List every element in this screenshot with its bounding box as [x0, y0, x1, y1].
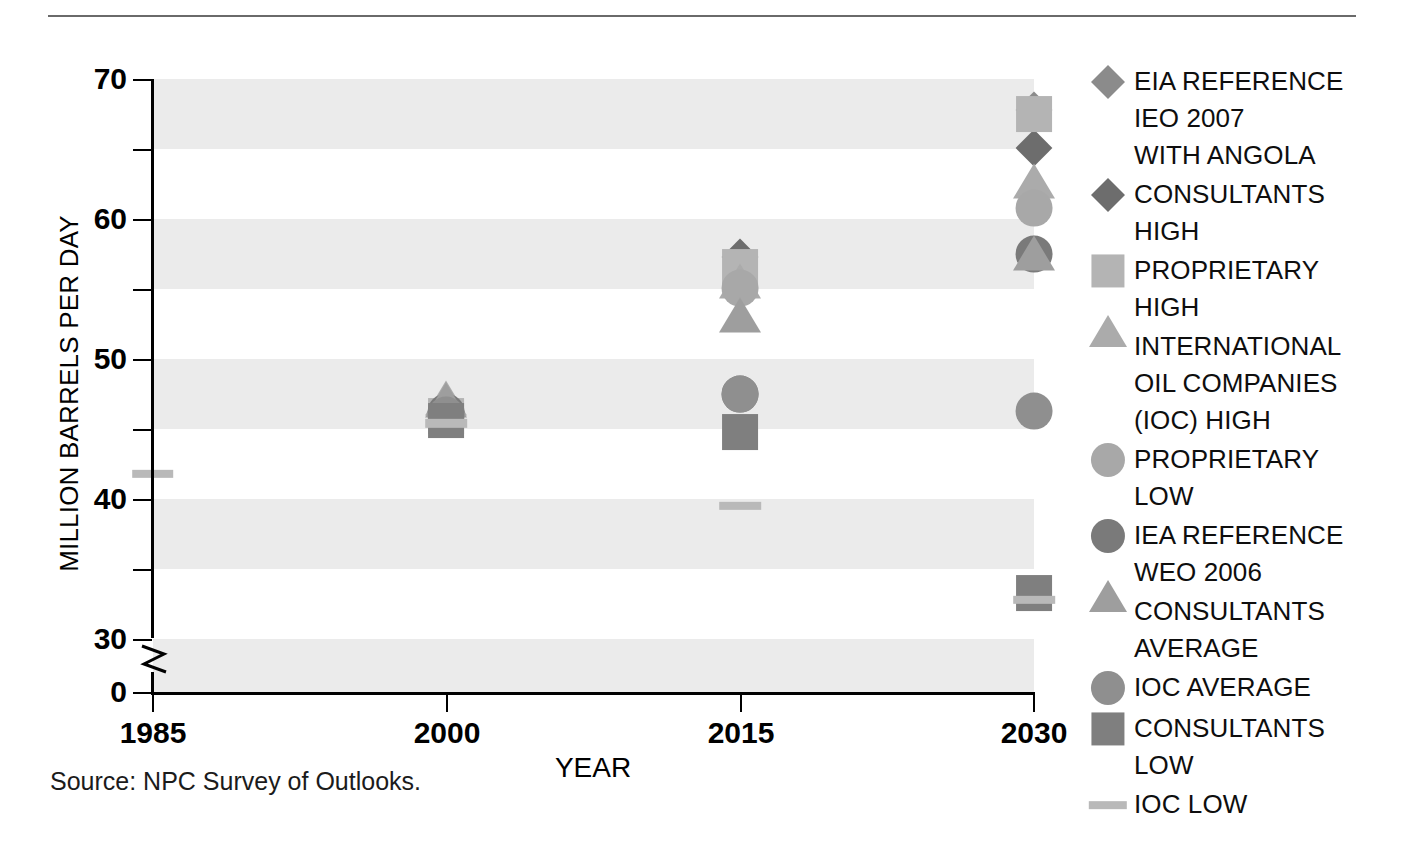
- y-axis-title: MILLION BARRELS PER DAY: [54, 184, 85, 604]
- y-tick-35: [133, 569, 152, 571]
- legend-item-label: CONSULTANTS AVERAGE: [1134, 592, 1325, 667]
- y-tick-40: [133, 499, 152, 501]
- square-marker-icon: [1082, 251, 1134, 291]
- triangle-marker-icon: [1089, 580, 1127, 612]
- x-tick-2015: [740, 694, 742, 712]
- y-tick-65: [133, 149, 152, 151]
- y-tick-50: [133, 359, 152, 361]
- legend-item-2[interactable]: PROPRIETARY HIGH: [1082, 251, 1402, 326]
- data-point: [1016, 392, 1053, 429]
- circle-marker-icon: [1091, 443, 1125, 477]
- x-tick-label-2015: 2015: [671, 716, 811, 750]
- x-axis-line: [151, 692, 1035, 695]
- legend-item-label: EIA REFERENCE IEO 2007 WITH ANGOLA: [1134, 62, 1343, 174]
- circle-marker-icon: [1082, 440, 1134, 480]
- circle-marker-icon: [1082, 668, 1134, 708]
- data-point: [719, 297, 761, 332]
- legend-item-label: PROPRIETARY LOW: [1134, 440, 1319, 515]
- axis-break-icon: [140, 640, 170, 676]
- data-point: [426, 419, 468, 427]
- square-marker-icon: [1091, 712, 1124, 745]
- data-point: [1016, 96, 1052, 132]
- data-point: [722, 376, 759, 413]
- y-tick-label-30: 30: [57, 622, 127, 656]
- y-tick-60: [133, 219, 152, 221]
- data-point: [1016, 129, 1053, 166]
- x-tick-label-2000: 2000: [377, 716, 517, 750]
- legend-item-4[interactable]: PROPRIETARY LOW: [1082, 440, 1402, 515]
- y-tick-label-70: 70: [57, 62, 127, 96]
- y-tick-0: [133, 692, 152, 694]
- circle-marker-icon: [1091, 519, 1125, 553]
- x-tick-1985: [152, 694, 154, 712]
- x-axis-title: YEAR: [453, 752, 733, 784]
- diamond-marker-icon: [1091, 178, 1125, 212]
- data-point: [1013, 236, 1055, 271]
- triangle-marker-icon: [1082, 327, 1134, 367]
- chart-page: 70 60 50 40 30 0 1985 2000 2015 2030 MIL…: [0, 0, 1410, 841]
- data-point: [1013, 596, 1055, 604]
- y-tick-70: [133, 79, 152, 81]
- triangle-marker-icon: [1089, 315, 1127, 347]
- legend-item-5[interactable]: IEA REFERENCE WEO 2006: [1082, 516, 1402, 591]
- legend-item-6[interactable]: CONSULTANTS AVERAGE: [1082, 592, 1402, 667]
- legend-item-9[interactable]: IOC LOW: [1082, 785, 1402, 825]
- y-tick-label-0: 0: [57, 675, 127, 709]
- legend-item-8[interactable]: CONSULTANTS LOW: [1082, 709, 1402, 784]
- square-marker-icon: [1091, 254, 1124, 287]
- circle-marker-icon: [1082, 516, 1134, 556]
- x-tick-2030: [1033, 694, 1035, 712]
- source-note: Source: NPC Survey of Outlooks.: [50, 767, 421, 796]
- legend-item-3[interactable]: INTERNATIONAL OIL COMPANIES (IOC) HIGH: [1082, 327, 1402, 439]
- dash-marker-icon: [1082, 785, 1134, 825]
- data-point: [1016, 575, 1052, 611]
- circle-marker-icon: [1091, 671, 1125, 705]
- legend-item-label: IOC LOW: [1134, 785, 1247, 823]
- chart-legend: EIA REFERENCE IEO 2007 WITH ANGOLACONSUL…: [1082, 62, 1402, 826]
- diamond-marker-icon: [1091, 65, 1125, 99]
- x-tick-label-1985: 1985: [83, 716, 223, 750]
- legend-item-label: CONSULTANTS LOW: [1134, 709, 1325, 784]
- legend-item-0[interactable]: EIA REFERENCE IEO 2007 WITH ANGOLA: [1082, 62, 1402, 174]
- legend-item-label: CONSULTANTS HIGH: [1134, 175, 1325, 250]
- y-tick-45: [133, 429, 152, 431]
- legend-item-1[interactable]: CONSULTANTS HIGH: [1082, 175, 1402, 250]
- y-tick-30: [133, 639, 152, 641]
- legend-item-label: INTERNATIONAL OIL COMPANIES (IOC) HIGH: [1134, 327, 1341, 439]
- diamond-marker-icon: [1082, 175, 1134, 215]
- legend-item-label: IEA REFERENCE WEO 2006: [1134, 516, 1343, 591]
- legend-item-label: IOC AVERAGE: [1134, 668, 1311, 706]
- legend-item-label: PROPRIETARY HIGH: [1134, 251, 1319, 326]
- legend-item-7[interactable]: IOC AVERAGE: [1082, 668, 1402, 708]
- data-point: [1016, 189, 1053, 226]
- data-point: [722, 414, 758, 450]
- y-tick-55: [133, 289, 152, 291]
- dash-marker-icon: [1089, 801, 1127, 809]
- data-point: [719, 502, 761, 510]
- diamond-marker-icon: [1082, 62, 1134, 102]
- x-tick-2000: [446, 694, 448, 712]
- triangle-marker-icon: [1082, 592, 1134, 632]
- square-marker-icon: [1082, 709, 1134, 749]
